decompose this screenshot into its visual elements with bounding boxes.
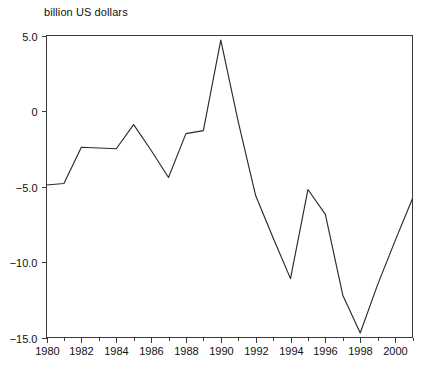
data-series-line bbox=[47, 40, 413, 333]
x-tick-label: 1998 bbox=[348, 345, 372, 357]
y-axis-tick-labels: 5.00−5.0−10.0−15.0 bbox=[10, 31, 38, 345]
y-tick-label: 0 bbox=[31, 106, 37, 118]
x-tick-label: 2000 bbox=[383, 345, 407, 357]
x-tick-label: 1984 bbox=[104, 345, 128, 357]
line-chart-plot: 5.00−5.0−10.0−15.0 198019821984198619881… bbox=[0, 0, 424, 365]
y-tick-label: −15.0 bbox=[10, 333, 38, 345]
x-tick-label: 1986 bbox=[139, 345, 163, 357]
x-tick-label: 1980 bbox=[35, 345, 59, 357]
x-tick-label: 1990 bbox=[209, 345, 233, 357]
x-axis-tick-labels: 1980198219841986198819901992199419961998… bbox=[35, 345, 407, 357]
y-tick-label: −5.0 bbox=[16, 182, 38, 194]
x-tick-label: 1982 bbox=[69, 345, 93, 357]
y-tick-label: −10.0 bbox=[10, 257, 38, 269]
x-tick-label: 1996 bbox=[313, 345, 337, 357]
chart-figure: billion US dollars 5.00−5.0−10.0−15.0 19… bbox=[0, 0, 424, 365]
x-tick-label: 1994 bbox=[279, 345, 303, 357]
y-tick-label: 5.0 bbox=[22, 31, 37, 43]
x-tick-label: 1988 bbox=[174, 345, 198, 357]
axis-tick-marks bbox=[42, 37, 414, 343]
x-tick-label: 1992 bbox=[244, 345, 268, 357]
